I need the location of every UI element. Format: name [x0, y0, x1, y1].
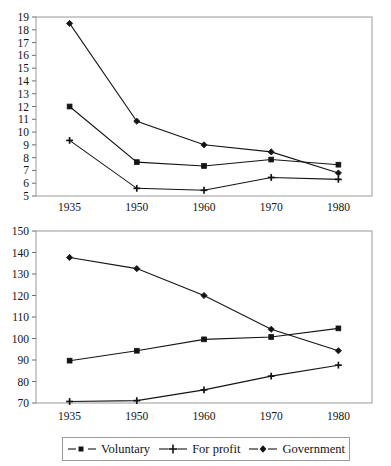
- x-axis-tick-label: 1980: [327, 201, 350, 212]
- series-for-profit: [66, 362, 342, 405]
- diamond-marker: [201, 142, 207, 148]
- diamond-marker: [268, 149, 274, 155]
- x-axis-tick-label: 1935: [58, 410, 81, 422]
- y-axis-tick-label: 14: [18, 75, 30, 87]
- y-axis-tick-label: 5: [23, 190, 29, 202]
- y-axis-tick-label: 80: [18, 376, 30, 388]
- legend-item-for-profit: For profit: [158, 442, 240, 457]
- diamond-marker: [134, 266, 140, 272]
- y-axis-tick-label: 110: [12, 311, 29, 323]
- y-axis-tick-label: 130: [12, 268, 30, 280]
- y-axis-tick-label: 18: [18, 24, 30, 36]
- series-voluntary: [67, 326, 341, 363]
- square-marker: [134, 348, 139, 353]
- y-axis-tick-label: 11: [18, 113, 29, 125]
- legend-label-voluntary: Voluntary: [101, 442, 150, 457]
- chart-legend: Voluntary For profit Government: [62, 437, 350, 461]
- series-voluntary: [67, 104, 341, 168]
- y-axis-tick-label: 19: [18, 11, 30, 23]
- square-marker: [202, 164, 207, 169]
- diamond-marker: [335, 348, 341, 354]
- y-axis-tick-label: 7: [23, 164, 29, 176]
- x-axis-tick-label: 1980: [327, 410, 350, 422]
- y-axis-tick-label: 120: [12, 290, 30, 302]
- y-axis-tick-label: 15: [18, 62, 30, 74]
- series-government: [67, 20, 342, 176]
- diamond-marker: [134, 118, 140, 124]
- plot-frame: [36, 17, 372, 196]
- y-axis-tick-label: 10: [18, 126, 30, 138]
- x-axis-tick-label: 1935: [58, 201, 81, 212]
- y-axis-tick-label: 6: [23, 177, 29, 189]
- y-axis-tick-label: 140: [12, 247, 30, 259]
- bottom-line-chart: 7080901001101201301401501935195019601970…: [0, 212, 391, 466]
- y-axis-tick-label: 90: [18, 354, 30, 366]
- square-marker: [336, 326, 341, 331]
- bottom-chart-canvas: 7080901001101201301401501935195019601970…: [0, 212, 391, 466]
- y-axis-tick-label: 16: [18, 49, 30, 61]
- diamond-marker: [67, 254, 73, 260]
- series-polyline: [70, 328, 339, 360]
- x-axis-tick-label: 1950: [125, 410, 148, 422]
- x-axis-tick-label: 1970: [260, 410, 283, 422]
- series-polyline: [70, 365, 339, 401]
- legend-item-voluntary: Voluntary: [67, 442, 150, 457]
- x-axis-tick-label: 1960: [193, 410, 216, 422]
- plus-marker-icon: [158, 443, 188, 455]
- square-marker: [269, 157, 274, 162]
- x-axis-tick-label: 1970: [260, 201, 283, 212]
- square-marker: [67, 104, 72, 109]
- square-marker: [269, 335, 274, 340]
- top-line-chart: 5678910111213141516171819193519501960197…: [0, 0, 391, 212]
- plot-frame: [36, 231, 372, 403]
- x-axis-tick-label: 1960: [193, 201, 216, 212]
- y-axis-tick-label: 150: [12, 225, 30, 237]
- series-polyline: [70, 107, 339, 166]
- square-marker: [202, 337, 207, 342]
- legend-item-government: Government: [248, 442, 344, 457]
- y-axis-tick-label: 9: [23, 139, 29, 151]
- square-marker: [67, 358, 72, 363]
- square-marker-icon: [67, 443, 97, 455]
- legend-label-government: Government: [282, 442, 344, 457]
- y-axis-tick-label: 70: [18, 397, 30, 409]
- diamond-marker: [335, 170, 341, 176]
- diamond-marker: [67, 20, 73, 26]
- top-chart-canvas: 5678910111213141516171819193519501960197…: [0, 0, 391, 212]
- y-axis-tick-label: 13: [18, 88, 30, 100]
- diamond-marker: [201, 292, 207, 298]
- diamond-marker: [268, 326, 274, 332]
- y-axis-tick-label: 17: [18, 37, 30, 49]
- legend-label-for-profit: For profit: [192, 442, 240, 457]
- x-axis-tick-label: 1950: [125, 201, 148, 212]
- diamond-marker-icon: [248, 443, 278, 455]
- series-polyline: [70, 23, 339, 173]
- square-marker: [336, 162, 341, 167]
- y-axis-tick-label: 8: [23, 152, 29, 164]
- y-axis-tick-label: 12: [18, 101, 30, 113]
- y-axis-tick-label: 100: [12, 333, 30, 345]
- square-marker: [134, 160, 139, 165]
